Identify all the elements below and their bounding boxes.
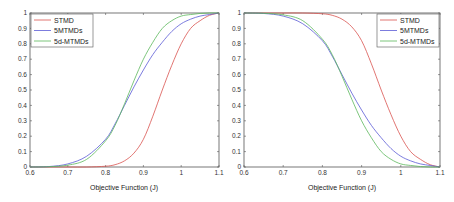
- plot-1: 0.60.70.80.911.100.10.20.30.40.50.60.70.…: [18, 9, 224, 192]
- x-tick-label: 0.9: [357, 169, 366, 176]
- legend-label: 5MTMDs: [54, 27, 83, 34]
- y-tick-label: 0.7: [232, 55, 241, 62]
- y-tick-label: 0: [23, 163, 27, 170]
- x-tick-label: 0.8: [101, 169, 110, 176]
- y-tick-label: 0.2: [18, 132, 27, 139]
- x-tick-label: 0.9: [139, 169, 148, 176]
- x-tick-label: 0.8: [318, 169, 327, 176]
- x-tick-label: 1.1: [435, 169, 444, 176]
- y-tick-label: 0.7: [18, 55, 27, 62]
- figure: 0.60.70.80.911.100.10.20.30.40.50.60.70.…: [0, 0, 454, 202]
- legend: STMD5MTMDs5d-MTMDs: [377, 14, 439, 47]
- y-tick-label: 0.3: [18, 117, 27, 124]
- x-tick-label: 0.7: [63, 169, 72, 176]
- y-tick-label: 0.8: [18, 40, 27, 47]
- legend-label: 5d-MTMDs: [400, 38, 435, 45]
- y-tick-label: 0.1: [18, 148, 27, 155]
- y-tick-label: 0.1: [232, 148, 241, 155]
- y-tick-label: 0.3: [232, 117, 241, 124]
- y-tick-label: 0.4: [232, 102, 241, 109]
- y-tick-label: 0.8: [232, 40, 241, 47]
- x-tick-label: 1: [179, 169, 183, 176]
- plot-2: 0.60.70.80.911.100.10.20.30.40.50.60.70.…: [232, 9, 445, 192]
- y-tick-label: 0.4: [18, 102, 27, 109]
- y-tick-label: 0.9: [232, 25, 241, 32]
- legend-label: STMD: [400, 17, 420, 24]
- x-axis-label: Objective Function (J): [308, 184, 376, 192]
- y-tick-label: 0.6: [232, 71, 241, 78]
- x-tick-label: 0.7: [279, 169, 288, 176]
- y-tick-label: 0.5: [232, 86, 241, 93]
- x-tick-label: 1: [399, 169, 403, 176]
- legend-label: 5d-MTMDs: [54, 38, 89, 45]
- y-tick-label: 0: [237, 163, 241, 170]
- legend-label: 5MTMDs: [400, 27, 429, 34]
- y-tick-label: 0.2: [232, 132, 241, 139]
- y-tick-label: 0.5: [18, 86, 27, 93]
- y-tick-label: 0.6: [18, 71, 27, 78]
- x-tick-label: 1.1: [214, 169, 223, 176]
- y-tick-label: 1: [23, 9, 27, 16]
- x-axis-label: Objective Function (J): [90, 184, 158, 192]
- legend-label: STMD: [54, 17, 74, 24]
- y-tick-label: 0.9: [18, 25, 27, 32]
- legend: STMD5MTMDs5d-MTMDs: [31, 14, 93, 47]
- y-tick-label: 1: [237, 9, 241, 16]
